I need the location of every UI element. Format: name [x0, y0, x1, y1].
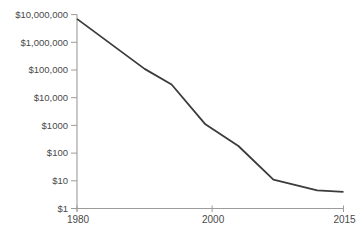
y-tick-label: $100	[47, 147, 68, 158]
line-chart-svg: $10,000,000$1,000,000$100,000$10,000$100…	[0, 0, 363, 241]
y-tick-label: $10,000	[34, 92, 68, 103]
y-tick-label: $1000	[42, 120, 68, 131]
y-tick-label: $1	[57, 203, 68, 214]
y-tick-label: $1,000,000	[20, 37, 68, 48]
y-tick-label: $10	[52, 175, 68, 186]
x-tick-label: 2015	[333, 214, 356, 225]
price-decline-chart: $10,000,000$1,000,000$100,000$10,000$100…	[0, 0, 363, 241]
y-tick-label: $100,000	[28, 64, 68, 75]
x-tick-label: 2000	[202, 214, 225, 225]
y-tick-label: $10,000,000	[15, 9, 68, 20]
x-tick-label: 1980	[67, 214, 90, 225]
price-line	[77, 19, 344, 192]
